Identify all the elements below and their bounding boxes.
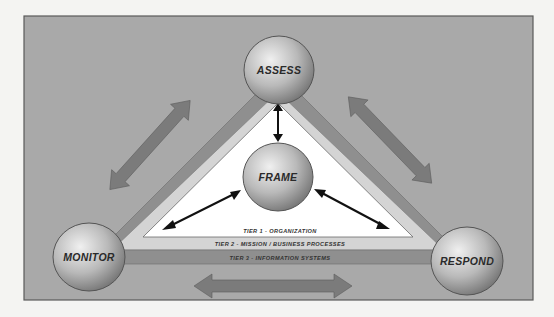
node-monitor-label: MONITOR xyxy=(63,251,115,263)
node-respond: RESPOND xyxy=(431,227,503,295)
node-frame-label: FRAME xyxy=(259,171,299,183)
node-respond-label: RESPOND xyxy=(440,255,494,267)
tier1-label: TIER 1 - ORGANIZATION xyxy=(243,228,317,234)
risk-framework-diagram: TIER 1 - ORGANIZATION TIER 2 - MISSION /… xyxy=(0,0,554,317)
node-monitor: MONITOR xyxy=(53,223,125,291)
tier2-label: TIER 2 - MISSION / BUSINESS PROCESSES xyxy=(215,241,345,247)
node-assess: ASSESS xyxy=(244,36,314,104)
node-assess-label: ASSESS xyxy=(256,64,301,76)
tier3-label: TIER 3 - INFORMATION SYSTEMS xyxy=(230,255,331,261)
node-frame: FRAME xyxy=(243,143,313,211)
